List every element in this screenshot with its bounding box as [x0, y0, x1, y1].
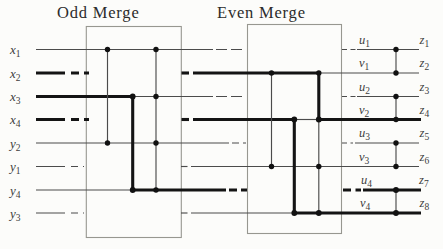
merge-network-figure: Odd Merge Even Merge [0, 0, 443, 249]
label-z2: z2 [419, 56, 430, 72]
input-label-y4: y4 [8, 183, 21, 200]
odd-merge-title: Odd Merge [57, 3, 140, 22]
input-label-x3: x3 [9, 89, 21, 106]
output-labels: z1 z2 z3 z4 z5 z6 z7 z8 [418, 33, 429, 213]
label-z4: z4 [419, 103, 430, 119]
label-z7: z7 [418, 173, 429, 189]
input-labels: x1 x2 x3 x4 y2 y1 y4 y3 [8, 42, 21, 223]
input-label-x2: x2 [9, 66, 21, 83]
input-label-x4: x4 [9, 112, 21, 129]
label-z1: z1 [419, 33, 430, 49]
input-label-x1: x1 [9, 42, 21, 59]
label-u1: u1 [359, 33, 370, 49]
input-label-y1: y1 [8, 159, 21, 176]
label-u4: u4 [361, 173, 372, 189]
label-z3: z3 [419, 80, 430, 96]
label-v2: v2 [359, 103, 370, 119]
label-v4: v4 [360, 196, 371, 212]
label-u3: u3 [359, 126, 370, 142]
label-z5: z5 [419, 126, 430, 142]
label-u2: u2 [359, 80, 370, 96]
label-v3: v3 [359, 150, 370, 166]
input-label-y2: y2 [8, 136, 21, 153]
intermediate-labels: u1 v1 u2 v2 u3 v3 u4 v4 [359, 33, 372, 213]
merge-network-diagram: Odd Merge Even Merge [0, 0, 443, 249]
even-merge-title: Even Merge [217, 3, 306, 22]
label-z8: z8 [419, 196, 430, 212]
label-z6: z6 [419, 150, 430, 166]
label-v1: v1 [359, 56, 370, 72]
input-label-y3: y3 [8, 206, 21, 223]
